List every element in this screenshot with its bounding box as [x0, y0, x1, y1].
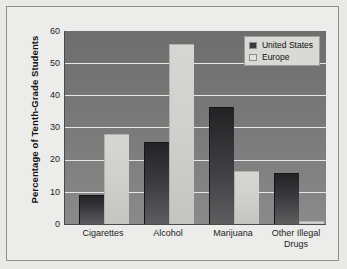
- y-tick-label: 0: [14, 220, 60, 229]
- y-tick-label: 20: [14, 155, 60, 164]
- light-swatch-icon: [249, 54, 257, 61]
- y-tick-label: 30: [14, 123, 60, 132]
- legend-label: Europe: [262, 52, 289, 62]
- dark-swatch-icon: [249, 42, 257, 49]
- bar-us-cigarettes: [79, 195, 104, 224]
- bar-us-alcohol: [144, 142, 169, 224]
- bar-eu-other-illegal-drugs: [299, 221, 324, 224]
- x-tick-label-line1: Other Illegal: [257, 228, 335, 239]
- y-axis-ticks: 60 50 40 30 20 10 0: [12, 31, 60, 224]
- legend-label: United States: [262, 40, 313, 50]
- chart-figure: Percentage of Tenth-Grade Students 60 50…: [0, 0, 347, 269]
- bar-eu-alcohol: [169, 44, 194, 224]
- y-tick-label: 10: [14, 188, 60, 197]
- y-tick-label: 50: [14, 59, 60, 68]
- chart-legend: United States Europe: [244, 36, 320, 66]
- plot-area: United States Europe: [64, 31, 326, 225]
- x-axis-ticks: Cigarettes Alcohol Marijuana Other Illeg…: [64, 228, 325, 262]
- legend-item-europe: Europe: [249, 52, 313, 62]
- bar-us-other-illegal-drugs: [274, 173, 299, 224]
- y-tick-label: 40: [14, 91, 60, 100]
- gridline-30: [65, 127, 326, 128]
- y-tick-label: 60: [14, 27, 60, 36]
- x-tick-label-line2: Drugs: [257, 239, 335, 250]
- bar-us-marijuana: [209, 107, 234, 224]
- x-tick-other-illegal-drugs: Other Illegal Drugs: [257, 228, 335, 250]
- figure-frame: Percentage of Tenth-Grade Students 60 50…: [6, 6, 339, 261]
- legend-item-united-states: United States: [249, 40, 313, 50]
- gridline-40: [65, 95, 326, 96]
- bar-eu-marijuana: [234, 171, 259, 224]
- bar-eu-cigarettes: [104, 134, 129, 224]
